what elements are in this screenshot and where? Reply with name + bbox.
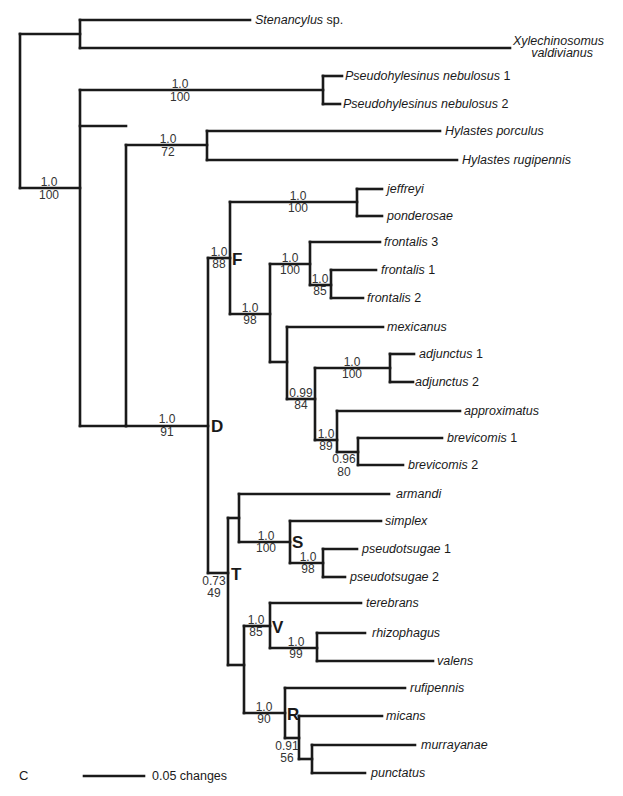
clade-label-D: D: [211, 417, 223, 436]
taxon-frontalis1: frontalis 1: [381, 263, 435, 277]
taxon-valens: valens: [437, 654, 473, 668]
taxon-valdivianus: valdivianus: [531, 46, 593, 60]
taxon-pseudotsugae2: pseudotsugae 2: [349, 570, 439, 584]
support-bootstrap: 100: [288, 201, 308, 215]
support-bootstrap: 89: [319, 439, 333, 453]
support-bootstrap: 98: [243, 313, 257, 327]
taxon-adjunctus2: adjunctus 2: [415, 375, 479, 389]
support-posterior: 1.0: [172, 77, 189, 91]
support-bootstrap: 49: [207, 586, 221, 600]
taxon-pseudotsugae1: pseudotsugae 1: [361, 542, 451, 556]
taxon-approximatus: approximatus: [464, 404, 539, 418]
clade-label-S: S: [292, 533, 303, 552]
support-bootstrap: 72: [161, 145, 175, 159]
taxon-brevicomis2: brevicomis 2: [408, 458, 478, 472]
support-bootstrap: 88: [212, 257, 226, 271]
support-bootstrap: 84: [294, 398, 308, 412]
clade-label-R: R: [287, 705, 299, 724]
taxon-armandi: armandi: [396, 487, 442, 501]
support-bootstrap: 99: [289, 647, 303, 661]
clade-label-F: F: [232, 250, 242, 269]
taxon-ponderosae: ponderosae: [386, 209, 453, 223]
taxon-pseudo2: Pseudohylesinus nebulosus 2: [343, 97, 508, 111]
taxon-pseudo1: Pseudohylesinus nebulosus 1: [345, 69, 510, 83]
taxon-punctatus: punctatus: [370, 766, 425, 780]
support-bootstrap: 98: [301, 562, 315, 576]
taxon-stenancylus: Stenancylus sp.: [255, 13, 343, 27]
taxon-rhizophagus: rhizophagus: [372, 626, 440, 640]
scale-bar-label: 0.05 changes: [152, 769, 227, 783]
support-bootstrap: 100: [280, 263, 300, 277]
taxon-mexicanus: mexicanus: [387, 320, 447, 334]
phylogenetic-tree: Stenancylus sp. Xylechinosomus valdivian…: [0, 0, 623, 796]
taxon-micans: micans: [386, 709, 426, 723]
support-posterior: 1.0: [159, 412, 176, 426]
support-posterior: 1.0: [41, 175, 58, 189]
support-bootstrap: 90: [257, 712, 271, 726]
taxon-adjunctus1: adjunctus 1: [419, 347, 483, 361]
support-posterior: 0.96: [332, 452, 356, 466]
taxon-murrayanae: murrayanae: [421, 738, 488, 752]
support-posterior: 1.0: [160, 132, 177, 146]
support-bootstrap: 100: [342, 367, 362, 381]
taxon-brevicomis1: brevicomis 1: [447, 431, 517, 445]
support-bootstrap: 85: [249, 625, 263, 639]
taxon-rufipennis: rufipennis: [410, 681, 464, 695]
taxon-jeffreyi: jeffreyi: [385, 182, 425, 196]
panel-label: C: [19, 768, 28, 783]
taxon-terebrans: terebrans: [366, 596, 419, 610]
support-bootstrap: 100: [256, 541, 276, 555]
support-bootstrap: 91: [160, 425, 174, 439]
support-bootstrap: 80: [337, 465, 351, 479]
support-bootstrap: 100: [170, 90, 190, 104]
support-bootstrap: 85: [313, 284, 327, 298]
taxon-simplex: simplex: [385, 514, 428, 528]
taxon-rugipennis: Hylastes rugipennis: [462, 153, 571, 167]
clade-label-V: V: [272, 618, 284, 637]
taxon-frontalis3: frontalis 3: [384, 235, 438, 249]
support-bootstrap: 56: [280, 751, 294, 765]
support-bootstrap: 100: [39, 188, 59, 202]
clade-label-T: T: [231, 565, 242, 584]
taxon-porculus: Hylastes porculus: [445, 124, 544, 138]
taxon-frontalis2: frontalis 2: [367, 291, 421, 305]
